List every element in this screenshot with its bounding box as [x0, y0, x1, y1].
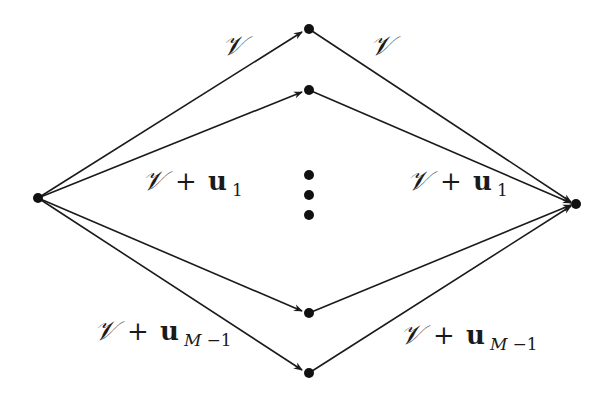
- node-sink: [571, 199, 581, 209]
- label-top-right: 𝒱: [370, 30, 401, 61]
- node-mid1: [304, 24, 314, 34]
- label-second-left: 𝒱 + u 1: [142, 165, 243, 200]
- node-source: [33, 193, 43, 203]
- edge-source-to-midM-1: [38, 198, 302, 311]
- ellipsis-dot: [304, 210, 314, 220]
- label-bottom-right: 𝒱 + u M −1: [400, 319, 538, 354]
- ellipsis-dot: [304, 170, 314, 180]
- edge-midM-1-to-sink: [309, 205, 571, 313]
- channel-diagram: 𝒱 𝒱 𝒱 + u 1 𝒱 + u 1 𝒱 + u M −1 𝒱 + u M −…: [0, 0, 616, 399]
- node-midM-1: [304, 308, 314, 318]
- ellipsis-dot: [304, 190, 314, 200]
- node-mid2: [304, 85, 314, 95]
- node-midM: [304, 368, 314, 378]
- edge-source-to-mid1: [38, 32, 302, 198]
- edge-source-to-mid2: [38, 92, 302, 198]
- label-second-right: 𝒱 + u 1: [407, 165, 508, 200]
- label-bottom-left: 𝒱 + u M −1: [94, 315, 232, 350]
- label-top-left: 𝒱: [222, 30, 253, 61]
